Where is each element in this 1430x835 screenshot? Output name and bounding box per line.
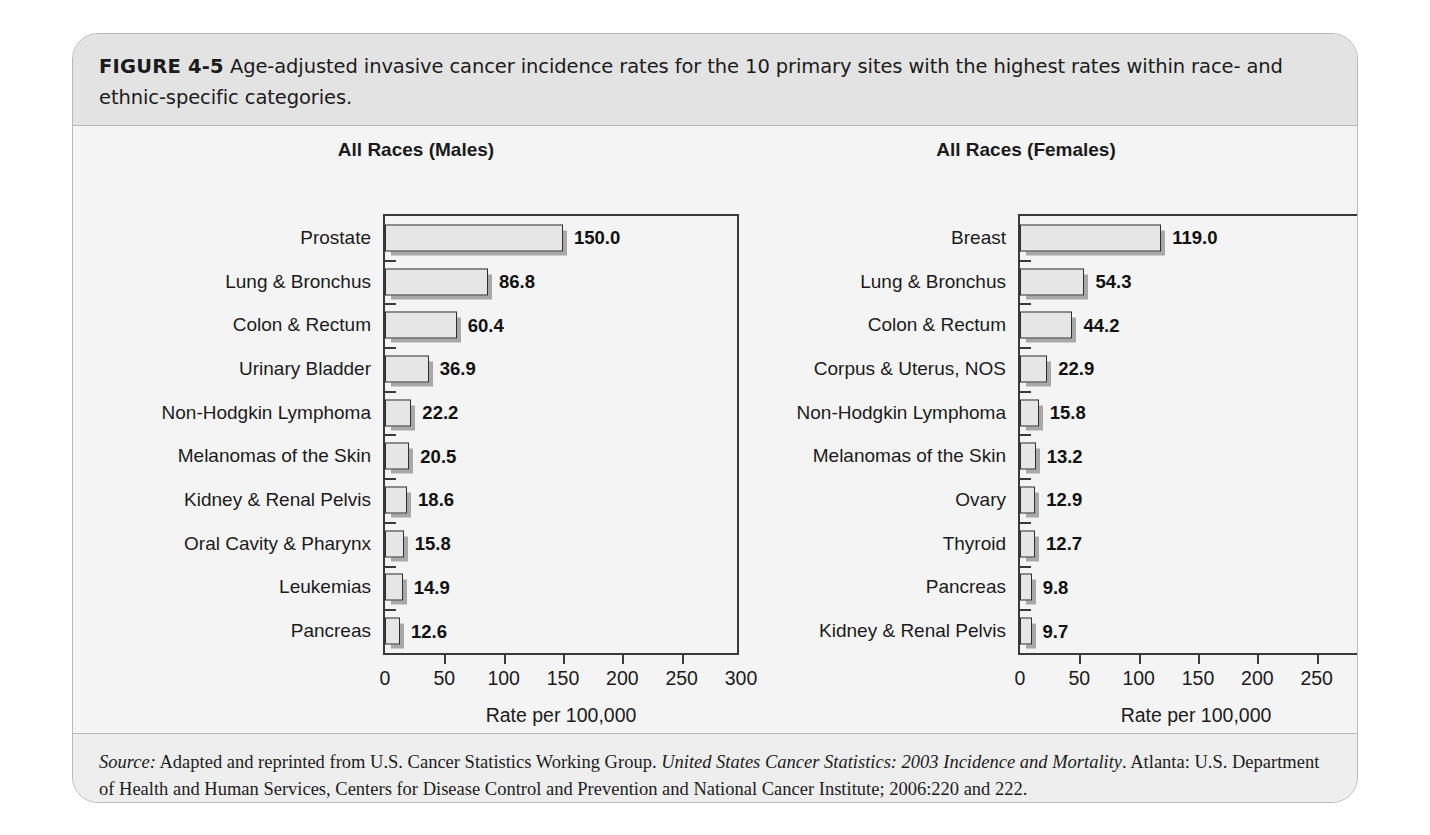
bar-row: Colon & Rectum60.4 <box>385 303 737 347</box>
chart-all-races-females: All Races (Females) Breast119.0Lung & Br… <box>721 126 1341 733</box>
bar-row: Ovary12.9 <box>1020 478 1358 522</box>
category-label: Non-Hodgkin Lymphoma <box>797 402 1006 424</box>
bar-value-label: 9.8 <box>1043 576 1069 598</box>
x-axis-tick-label: 100 <box>1122 667 1155 690</box>
bar-rect: 9.8 <box>1020 574 1032 601</box>
bar: 12.6 <box>385 618 400 645</box>
bar-rect: 18.6 <box>385 486 407 513</box>
bar-value-label: 12.6 <box>411 620 447 642</box>
chart-title-females: All Races (Females) <box>711 139 1341 161</box>
bar-rows-males: Prostate150.0Lung & Bronchus86.8Colon & … <box>385 216 737 653</box>
bar: 18.6 <box>385 486 407 513</box>
bar-value-label: 22.9 <box>1058 358 1094 380</box>
bar-value-label: 150.0 <box>574 227 620 249</box>
bar-rect: 44.2 <box>1020 312 1072 339</box>
bar-rect: 60.4 <box>385 312 457 339</box>
figure-caption-body: Age-adjusted invasive cancer incidence r… <box>99 55 1283 109</box>
x-axis-tick-label: 200 <box>1241 667 1274 690</box>
bar: 14.9 <box>385 574 403 601</box>
category-label: Pancreas <box>926 576 1006 598</box>
category-label: Urinary Bladder <box>239 358 371 380</box>
bar: 20.5 <box>385 443 409 470</box>
x-axis-tick <box>1317 653 1319 664</box>
bar-rect: 119.0 <box>1020 224 1161 251</box>
x-axis-tick <box>504 653 506 664</box>
x-axis-tick-label: 0 <box>1015 667 1026 690</box>
bar-value-label: 14.9 <box>414 576 450 598</box>
category-label: Ovary <box>955 489 1006 511</box>
bar-row: Pancreas9.8 <box>1020 566 1358 610</box>
bar-row: Oral Cavity & Pharynx15.8 <box>385 522 737 566</box>
category-label: Oral Cavity & Pharynx <box>184 533 371 555</box>
x-axis-tick <box>622 653 624 664</box>
bar-row: Thyroid12.7 <box>1020 522 1358 566</box>
category-label: Corpus & Uterus, NOS <box>814 358 1006 380</box>
bar-rect: 15.8 <box>385 530 404 557</box>
category-label: Kidney & Renal Pelvis <box>819 620 1006 642</box>
x-axis-tick <box>1257 653 1259 664</box>
bar-rect: 54.3 <box>1020 268 1084 295</box>
bar: 12.7 <box>1020 530 1035 557</box>
bar-rect: 86.8 <box>385 268 488 295</box>
bar: 22.2 <box>385 399 411 426</box>
bar: 15.8 <box>1020 399 1039 426</box>
bar: 86.8 <box>385 268 488 295</box>
bar-value-label: 13.2 <box>1047 445 1083 467</box>
category-label: Colon & Rectum <box>868 314 1006 336</box>
bar-row: Melanomas of the Skin13.2 <box>1020 434 1358 478</box>
bar-rect: 14.9 <box>385 574 403 601</box>
category-label: Lung & Bronchus <box>225 271 371 293</box>
bar-rows-females: Breast119.0Lung & Bronchus54.3Colon & Re… <box>1020 216 1358 653</box>
x-axis-females: 050100150200250300 <box>1020 653 1358 703</box>
bar-row: Lung & Bronchus54.3 <box>1020 260 1358 304</box>
bar: 9.7 <box>1020 618 1032 645</box>
figure-caption: FIGURE 4-5 Age-adjusted invasive cancer … <box>99 51 1335 113</box>
category-label: Kidney & Renal Pelvis <box>184 489 371 511</box>
bar-value-label: 22.2 <box>422 402 458 424</box>
bar: 36.9 <box>385 355 429 382</box>
category-label: Melanomas of the Skin <box>813 445 1006 467</box>
bar: 44.2 <box>1020 312 1072 339</box>
bar-value-label: 119.0 <box>1172 227 1217 249</box>
category-label: Non-Hodgkin Lymphoma <box>162 402 371 424</box>
bar-row: Breast119.0 <box>1020 216 1358 260</box>
bar-rect: 22.2 <box>385 399 411 426</box>
plot-area-males: Prostate150.0Lung & Bronchus86.8Colon & … <box>383 214 739 655</box>
bar: 13.2 <box>1020 443 1036 470</box>
x-axis-tick <box>563 653 565 664</box>
x-axis-tick <box>1139 653 1141 664</box>
x-axis-tick-label: 150 <box>1182 667 1215 690</box>
bar: 119.0 <box>1020 224 1161 251</box>
bar-value-label: 12.7 <box>1046 533 1082 555</box>
category-label: Thyroid <box>943 533 1006 555</box>
x-axis-title-females: Rate per 100,000 <box>1020 704 1358 727</box>
bar-row: Non-Hodgkin Lymphoma15.8 <box>1020 391 1358 435</box>
x-axis-tick-label: 50 <box>1068 667 1090 690</box>
x-axis-tick-label: 100 <box>487 667 520 690</box>
bar-rect: 12.9 <box>1020 486 1035 513</box>
bar-value-label: 15.8 <box>1050 402 1086 424</box>
figure-caption-band: FIGURE 4-5 Age-adjusted invasive cancer … <box>73 34 1357 126</box>
x-axis-tick-label: 50 <box>433 667 455 690</box>
bar-row: Kidney & Renal Pelvis18.6 <box>385 478 737 522</box>
chart-title-males: All Races (Males) <box>119 139 713 161</box>
figure-panel: FIGURE 4-5 Age-adjusted invasive cancer … <box>72 33 1358 803</box>
x-axis-tick-label: 250 <box>665 667 698 690</box>
bar: 60.4 <box>385 312 457 339</box>
bar: 9.8 <box>1020 574 1032 601</box>
bar-rect: 22.9 <box>1020 355 1047 382</box>
bar-value-label: 86.8 <box>499 271 535 293</box>
chart-all-races-males: All Races (Males) Prostate150.0Lung & Br… <box>91 126 711 733</box>
bar-row: Corpus & Uterus, NOS22.9 <box>1020 347 1358 391</box>
source-prefix: Source: <box>99 752 156 772</box>
bar: 15.8 <box>385 530 404 557</box>
bar-rect: 36.9 <box>385 355 429 382</box>
bar: 150.0 <box>385 224 563 251</box>
source-note: Source: Adapted and reprinted from U.S. … <box>99 749 1339 803</box>
bar-row: Lung & Bronchus86.8 <box>385 260 737 304</box>
bar-row: Colon & Rectum44.2 <box>1020 303 1358 347</box>
bar-value-label: 60.4 <box>468 314 504 336</box>
bar-rect: 15.8 <box>1020 399 1039 426</box>
plot-area-females: Breast119.0Lung & Bronchus54.3Colon & Re… <box>1018 214 1358 655</box>
bar-rect: 12.7 <box>1020 530 1035 557</box>
